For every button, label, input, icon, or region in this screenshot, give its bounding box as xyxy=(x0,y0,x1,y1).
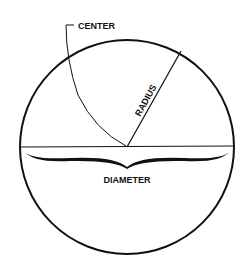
diameter-brace xyxy=(24,151,230,169)
radius-line xyxy=(127,51,181,147)
center-leader-line xyxy=(66,25,126,146)
center-label: CENTER xyxy=(78,21,116,31)
diameter-label: DIAMETER xyxy=(104,175,152,185)
circle-diagram: CENTER RADIUS DIAMETER xyxy=(0,0,250,268)
